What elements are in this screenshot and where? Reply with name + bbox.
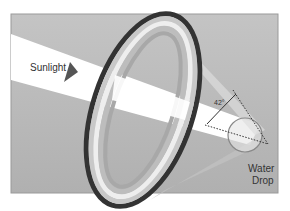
water-drop — [228, 118, 262, 152]
rainbow-diagram — [0, 0, 290, 211]
sunlight-label: Sunlight — [30, 62, 66, 73]
angle-label: 42° — [214, 97, 225, 108]
water-drop-label-line1: Water — [248, 163, 274, 174]
water-drop-label-line2: Drop — [252, 175, 274, 186]
